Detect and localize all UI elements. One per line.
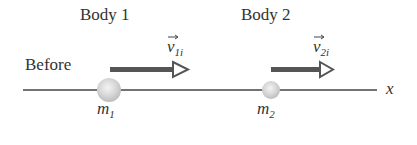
body-2-label: Body 2 — [241, 5, 291, 25]
v2-label: v2i — [313, 37, 329, 58]
mass-2-sphere — [262, 81, 280, 99]
body-1-label: Body 1 — [80, 5, 130, 25]
velocity-arrow-2 — [271, 62, 333, 77]
velocity-arrow-1 — [110, 62, 188, 77]
axis-x-label: x — [386, 79, 394, 99]
m2-label: m2 — [257, 99, 275, 120]
stage-label: Before — [25, 55, 71, 75]
m1-label: m1 — [97, 99, 115, 120]
v1-label: v1i — [167, 37, 183, 58]
